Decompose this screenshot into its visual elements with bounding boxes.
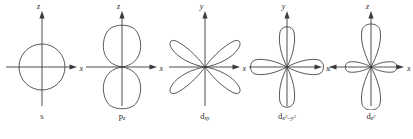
orbital-label-dz2: dz2 xyxy=(329,112,413,121)
orbital-diagram-figure: z x s z x pz xyxy=(0,0,413,139)
horizontal-axis-arrow-icon xyxy=(70,64,78,69)
vertical-axis-arrow-icon xyxy=(39,11,44,19)
orbital-shape-dx2y2: y x xyxy=(245,2,329,110)
orbital-shape-dxy: y x xyxy=(163,2,247,110)
vertical-axis-arrow-icon xyxy=(119,11,124,19)
orbital-label-subscript: x2–y2 xyxy=(282,114,296,121)
vertical-axis-label: z xyxy=(365,2,370,11)
orbital-label-pz: pz xyxy=(80,112,164,121)
dxy-lobe-upper-left xyxy=(170,40,205,67)
orbital-label-base: s xyxy=(40,111,43,121)
orbital-label-subscript: z2 xyxy=(371,114,376,121)
orbital-label-dxy: dxy xyxy=(163,112,247,121)
horizontal-axis-arrow-icon xyxy=(233,64,241,69)
vertical-axis-label: y xyxy=(199,2,204,11)
orbital-shape-dz2: z x x xyxy=(329,2,413,110)
orbital-diagram-s: z x s xyxy=(0,0,84,139)
horizontal-axis-arrow-icon xyxy=(315,64,323,69)
orbital-diagram-dxy: y x dxy xyxy=(163,0,247,139)
orbital-label-sup-y: 2 xyxy=(293,114,296,119)
horizontal-axis-arrow-icon xyxy=(397,64,405,69)
vertical-axis-label: z xyxy=(36,2,41,11)
horizontal-axis-label: x xyxy=(406,64,411,73)
vertical-axis-arrow-icon xyxy=(202,11,207,19)
orbital-label-subscript: z xyxy=(123,114,125,121)
dxy-lobe-upper-right xyxy=(205,40,240,67)
horizontal-axis-label-left: x xyxy=(329,64,331,73)
vertical-axis-label: y xyxy=(281,2,286,11)
vertical-axis-label: z xyxy=(116,2,121,11)
orbital-shape-s: z x xyxy=(0,2,84,110)
orbital-shape-pz: z x xyxy=(80,2,164,110)
orbital-label-dx2y2: dx2–y2 xyxy=(245,112,329,121)
orbital-label-sup-z: 2 xyxy=(373,114,376,119)
dxy-lobe-lower-right xyxy=(205,67,240,94)
orbital-diagram-dx2y2: y x dx2–y2 xyxy=(245,0,329,139)
orbital-diagram-pz: z x pz xyxy=(80,0,164,139)
orbital-diagram-dz2: z x x dz2 xyxy=(329,0,413,139)
orbital-label-subscript: xy xyxy=(204,114,210,121)
dxy-lobe-lower-left xyxy=(170,67,205,94)
vertical-axis-arrow-icon xyxy=(368,11,373,19)
orbital-label-s: s xyxy=(0,112,84,121)
vertical-axis-arrow-icon xyxy=(284,11,289,19)
horizontal-axis-arrow-icon xyxy=(150,64,158,69)
